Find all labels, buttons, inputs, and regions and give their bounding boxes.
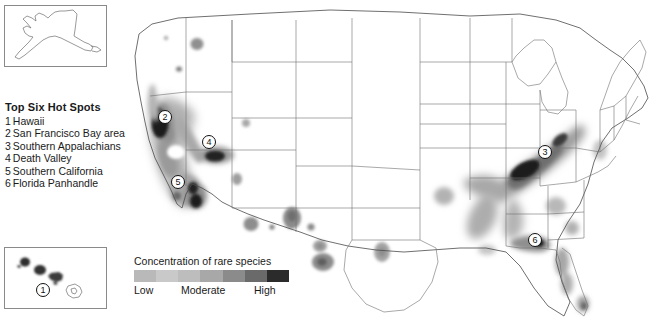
hotspot-label: Southern Appalachians [13, 140, 121, 152]
ramp-swatch-4 [200, 270, 222, 282]
hotspot-label: Florida Panhandle [13, 177, 98, 189]
list-item: 6Florida Panhandle [5, 177, 133, 189]
svg-text:3: 3 [542, 147, 547, 157]
svg-text:2: 2 [162, 112, 167, 122]
hotspot-number: 4 [5, 152, 11, 164]
scale-label-low: Low [134, 284, 153, 296]
ramp-swatch-2 [156, 270, 178, 282]
hotspot-legend: Top Six Hot Spots 1Hawaii 2San Francisco… [5, 101, 133, 189]
marker-5[interactable]: 5 [172, 176, 185, 189]
list-item: 2San Francisco Bay area [5, 127, 133, 139]
hawaii-density [17, 257, 63, 285]
hawaii-inset: 1 [4, 247, 107, 309]
list-item: 1Hawaii [5, 115, 133, 127]
hotspot-number: 3 [5, 140, 11, 152]
map-page: 2 4 5 3 6 [0, 0, 659, 322]
scale-label-moderate: Moderate [181, 284, 225, 296]
marker-1[interactable]: 1 [37, 284, 50, 297]
concentration-scale-labels: Low Moderate High [134, 284, 289, 298]
ramp-swatch-6 [245, 270, 267, 282]
hotspot-number: 2 [5, 127, 11, 139]
ramp-swatch-3 [178, 270, 200, 282]
concentration-color-ramp [134, 270, 289, 282]
hotspot-number: 6 [5, 177, 11, 189]
concentration-legend: Concentration of rare species Low Modera… [134, 255, 294, 298]
ramp-swatch-7 [267, 270, 289, 282]
svg-text:4: 4 [206, 137, 211, 147]
list-item: 3Southern Appalachians [5, 140, 133, 152]
marker-4[interactable]: 4 [203, 136, 216, 149]
concentration-legend-title: Concentration of rare species [134, 255, 294, 267]
marker-2[interactable]: 2 [159, 111, 172, 124]
alaska-inset [4, 5, 107, 67]
hawaii-outline: 1 [5, 248, 106, 308]
svg-text:6: 6 [532, 235, 537, 245]
alaska-outline [5, 6, 106, 66]
hotspot-number: 1 [5, 115, 11, 127]
hotspot-label: Southern California [13, 165, 103, 177]
scale-label-high: High [254, 284, 276, 296]
list-item: 4Death Valley [5, 152, 133, 164]
hotspot-label: San Francisco Bay area [13, 127, 125, 139]
ramp-swatch-5 [223, 270, 245, 282]
marker-3[interactable]: 3 [539, 146, 552, 159]
hotspot-label: Hawaii [13, 115, 45, 127]
hotspot-legend-title: Top Six Hot Spots [5, 101, 133, 114]
hotspot-number: 5 [5, 165, 11, 177]
list-item: 5Southern California [5, 165, 133, 177]
marker-6[interactable]: 6 [529, 234, 542, 247]
hotspot-label: Death Valley [13, 152, 72, 164]
hotspot-list: 1Hawaii 2San Francisco Bay area 3Souther… [5, 115, 133, 189]
svg-text:5: 5 [175, 177, 180, 187]
svg-text:1: 1 [40, 285, 45, 295]
ramp-swatch-1 [134, 270, 156, 282]
